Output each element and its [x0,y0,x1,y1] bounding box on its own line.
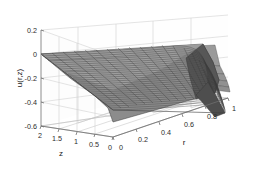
r-axis-title: r [183,138,186,147]
u-tick-label-1: 0 [33,50,37,59]
plot-canvas: 0.2 0 -0.2 -0.4 -0.6 2 1.5 1 0.5 0 0 0.2… [0,0,267,187]
u-axis-tick-labels: 0.2 0 -0.2 -0.4 -0.6 [25,26,37,131]
u-axis-title: u(r,z) [15,69,24,88]
u-tick-label-3: -0.4 [25,98,37,107]
z-tick-label-1: 1 [74,137,78,146]
r-tick-label-02: 0.2 [138,135,148,144]
r-tick-label-0: 0 [119,143,123,152]
r-tick-label-08: 0.8 [207,112,217,121]
r-tick-label-1: 1 [232,104,236,113]
z-tick-label-2: 2 [38,131,42,140]
z-axis-title: z [59,149,63,158]
r-tick-label-04: 0.4 [161,128,171,137]
z-tick-label-05: 0.5 [89,140,99,149]
u-tick-label-0: 0.2 [27,26,37,35]
r-tick-label-06: 0.6 [184,120,194,129]
u-tick-label-4: -0.6 [25,122,37,131]
u-tick-label-2: -0.2 [25,74,37,83]
z-tick-label-0: 0 [108,143,112,152]
z-tick-label-15: 1.5 [52,134,62,143]
surface-plot-figure: 0.2 0 -0.2 -0.4 -0.6 2 1.5 1 0.5 0 0 0.2… [0,0,267,187]
